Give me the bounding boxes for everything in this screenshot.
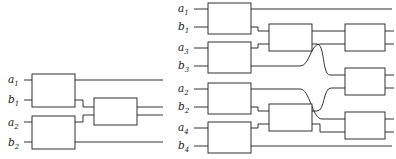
input-label-b2: b2 [178, 100, 190, 115]
gate-r8[interactable] [345, 68, 385, 95]
right-input-labels: a1 b1 a3 b3 a2 b2 a4 b4 [178, 2, 190, 154]
wire-b1-to-gate3 [75, 100, 94, 107]
input-label-a2: a2 [8, 116, 19, 131]
gate-r6[interactable] [269, 104, 312, 131]
wire-a2-to-gate3 [75, 115, 94, 122]
input-label-b1: b1 [8, 93, 19, 108]
wire-b2-to-gate-r6 [251, 107, 269, 111]
input-label-a3: a3 [178, 41, 189, 56]
gate-r9[interactable] [345, 112, 385, 139]
gate-l2[interactable] [32, 116, 75, 149]
input-label-b3: b3 [178, 59, 190, 74]
input-label-a4: a4 [178, 121, 189, 136]
gate-r7[interactable] [345, 24, 385, 51]
input-label-a1: a1 [8, 73, 19, 88]
wire-a3-to-gate-r5 [251, 44, 269, 48]
input-label-b1: b1 [178, 20, 189, 35]
gate-r2[interactable] [208, 42, 251, 73]
wire-a4-to-gate-r6 [251, 124, 269, 128]
right-circuit-diagram: a1 b1 a3 b3 a2 b2 a4 b4 [170, 0, 396, 159]
left-input-labels: a1 b1 a2 b2 [8, 73, 20, 151]
wire-crossing-r6-up [312, 88, 345, 111]
input-label-a1: a1 [178, 2, 189, 17]
gate-l1[interactable] [32, 74, 75, 107]
wire-gate-r6-out-bottom [312, 124, 345, 132]
gate-r3[interactable] [208, 83, 251, 114]
gate-r4[interactable] [208, 122, 251, 153]
wire-b1-to-gate-r5 [251, 27, 269, 31]
input-label-a2: a2 [178, 82, 189, 97]
gate-l3[interactable] [94, 98, 137, 125]
input-label-b2: b2 [8, 136, 20, 151]
input-label-b4: b4 [178, 139, 189, 154]
wire-crossing-r5-down [312, 44, 345, 75]
figure-canvas: a1 b1 a2 b2 [0, 0, 396, 159]
gate-r5[interactable] [269, 24, 312, 51]
left-circuit-diagram: a1 b1 a2 b2 [0, 0, 170, 159]
gate-r1[interactable] [208, 3, 251, 34]
